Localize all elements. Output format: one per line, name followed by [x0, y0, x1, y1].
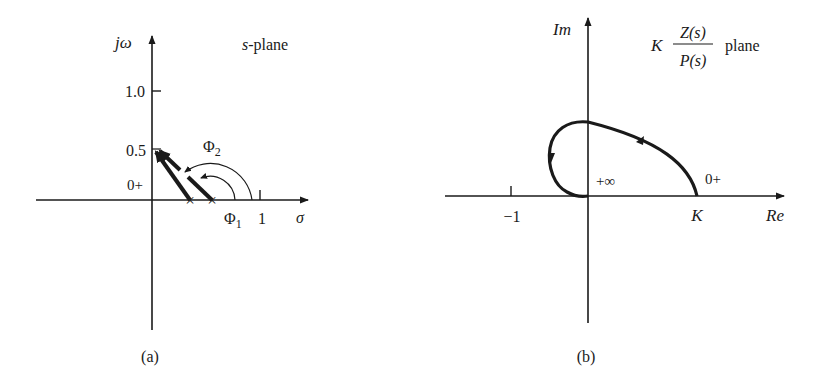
s-plane-label: s-plane — [242, 36, 288, 54]
phi1-label: Φ1 — [224, 210, 242, 231]
phi1-subscript: 1 — [236, 217, 242, 231]
figure-b-kzp-plane: Im K Z(s) P(s) plane +∞ 0+ −1 K Re (b) — [445, 18, 784, 366]
plane-label-gain: K — [650, 36, 664, 55]
y-tick-label-1-0: 1.0 — [125, 83, 145, 100]
figure-canvas: × × jω s-plane 1.0 0.5 0+ Φ2 Φ1 1 σ (a) — [0, 0, 813, 388]
y-tick-label-0-5: 0.5 — [126, 142, 146, 159]
plane-label-suffix: plane — [725, 37, 760, 55]
frequency-response-curve — [549, 122, 697, 197]
figure-b-caption: (b) — [577, 348, 596, 366]
x-tick-label-k: K — [690, 206, 704, 225]
x-tick-label-minus-1: −1 — [503, 208, 520, 225]
phi2-subscript: 2 — [215, 145, 221, 159]
curve-label-infinity: +∞ — [596, 173, 615, 189]
sigma-axis-label: σ — [296, 209, 305, 226]
phi2-label: Φ2 — [203, 138, 221, 159]
pole-marker-1: × — [185, 191, 195, 210]
pole-marker-2: × — [207, 191, 217, 210]
figure-a-s-plane: × × jω s-plane 1.0 0.5 0+ Φ2 Φ1 1 σ (a) — [36, 33, 308, 366]
plane-label-denominator: P(s) — [679, 52, 707, 70]
curve-label-zero-plus: 0+ — [705, 171, 721, 187]
plane-label-numerator: Z(s) — [680, 24, 706, 42]
im-axis-label: Im — [552, 20, 571, 39]
figure-a-caption: (a) — [141, 348, 159, 366]
y-tick-label-0-plus: 0+ — [127, 177, 143, 193]
jw-axis-label: jω — [113, 33, 132, 52]
s-plane-suffix: -plane — [248, 36, 288, 54]
phi2-symbol: Φ — [203, 138, 215, 155]
phi1-symbol: Φ — [224, 210, 236, 227]
x-tick-label-1: 1 — [258, 210, 266, 227]
re-axis-label: Re — [765, 206, 784, 225]
